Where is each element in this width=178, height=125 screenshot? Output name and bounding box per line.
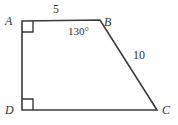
vertex-label-a: A xyxy=(5,15,12,27)
vertex-label-c: C xyxy=(162,104,170,116)
right-angle-marker-d xyxy=(22,99,33,110)
geometry-figure: A B C D 5 10 130° xyxy=(0,0,178,125)
vertex-label-d: D xyxy=(5,104,14,116)
right-angle-marker-a xyxy=(22,21,33,32)
quadrilateral-outline xyxy=(22,20,157,110)
vertex-label-b: B xyxy=(104,16,111,28)
side-length-label-ab: 5 xyxy=(53,3,59,15)
side-length-label-bc: 10 xyxy=(133,49,145,61)
figure-canvas xyxy=(0,0,178,125)
angle-measure-label-b: 130° xyxy=(68,26,89,37)
